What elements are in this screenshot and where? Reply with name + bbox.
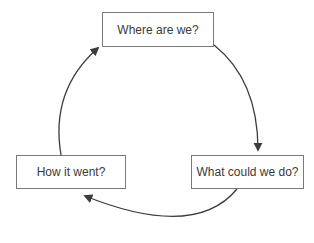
node-how-it-went: How it went? (16, 155, 126, 189)
arrow-top-to-right (214, 45, 258, 150)
node-what-could-we-do: What could we do? (191, 155, 304, 189)
node-label: How it went? (37, 165, 106, 179)
arrow-left-to-top (59, 48, 98, 155)
node-label: What could we do? (196, 165, 298, 179)
node-label: Where are we? (117, 23, 198, 37)
arrow-right-to-left (85, 189, 237, 216)
node-where-are-we: Where are we? (102, 12, 214, 47)
